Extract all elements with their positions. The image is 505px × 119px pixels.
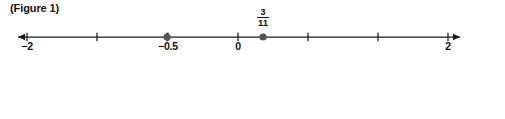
tick-label: 2: [445, 40, 451, 52]
number-line-axis-figure-1: [0, 26, 505, 56]
tick-label: 0: [235, 40, 241, 52]
tick-label: −2: [21, 40, 33, 52]
fraction-denominator: 11: [257, 17, 269, 28]
fraction-numerator: 3: [257, 7, 269, 17]
figure-1-block: (Figure 1) −2−0.502 311: [0, 0, 505, 58]
fraction-three-elevenths: 311: [257, 7, 269, 28]
number-line-figure-1: −2−0.502 311: [0, 26, 505, 56]
axis-arrow-right-icon: [453, 34, 460, 40]
figure-2-block: (Figure 2) −4−3.5−3: [0, 58, 505, 119]
point-value-label: 311: [257, 7, 269, 30]
figure-1-caption: (Figure 1): [10, 2, 59, 14]
tick-label: −0.5: [158, 40, 178, 52]
figure-2-caption: (Figure 2): [10, 118, 59, 119]
point-three-elevenths: [259, 33, 266, 40]
